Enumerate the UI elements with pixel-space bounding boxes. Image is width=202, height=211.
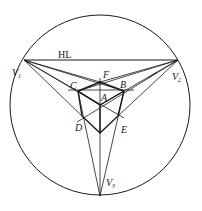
point-label-d: D	[74, 122, 83, 133]
perspective-diagram: HL V1 V2 V3 F C B A D E	[0, 0, 202, 211]
horizon-label: HL	[58, 49, 71, 60]
point-label-c: C	[70, 80, 77, 91]
diagram-svg: HL V1 V2 V3 F C B A D E	[0, 0, 202, 211]
point-label-f: F	[102, 69, 110, 80]
point-label-v1: V1	[12, 67, 21, 79]
point-label-e: E	[120, 124, 127, 135]
point-label-v2: V2	[172, 71, 181, 83]
point-label-a: A	[100, 92, 108, 103]
point-label-b: B	[120, 79, 126, 90]
v2-vanishing-lines	[77, 60, 178, 122]
point-label-v3: V3	[106, 177, 115, 189]
